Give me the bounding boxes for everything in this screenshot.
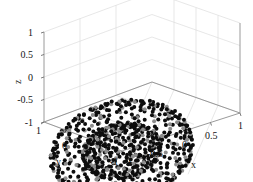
figure-canvas: 1 0.5 0 -0.5 -1 z 1 0 -1 y -1 -0.5 0 0.5…	[0, 0, 253, 182]
z-tick-label-1: 1	[28, 28, 33, 38]
scatter-points-group	[49, 98, 195, 182]
plot-svg	[0, 0, 253, 182]
grid-back-right-wall	[152, 0, 240, 113]
x-tick-label-neg1: -1	[124, 157, 132, 167]
z-tick-label-neg0_5: -0.5	[17, 95, 33, 105]
z-axis-label: z	[13, 80, 23, 84]
y-tick-label-neg1: -1	[110, 157, 118, 167]
x-tick-label-0_5: 0.5	[205, 131, 218, 141]
x-tick-label-neg0_5: -0.5	[147, 149, 163, 159]
z-tick-label-0: 0	[28, 73, 33, 83]
z-tick-label-0_5: 0.5	[21, 50, 34, 60]
z-tick-label-neg1: -1	[25, 118, 33, 128]
y-tick-label-1: 1	[36, 126, 41, 136]
y-axis-label: y	[56, 157, 61, 167]
y-tick-label-0: 0	[62, 141, 67, 151]
x-axis-label: x	[191, 160, 196, 170]
x-tick-label-0: 0	[182, 140, 187, 150]
x-tick-label-1: 1	[238, 121, 243, 131]
